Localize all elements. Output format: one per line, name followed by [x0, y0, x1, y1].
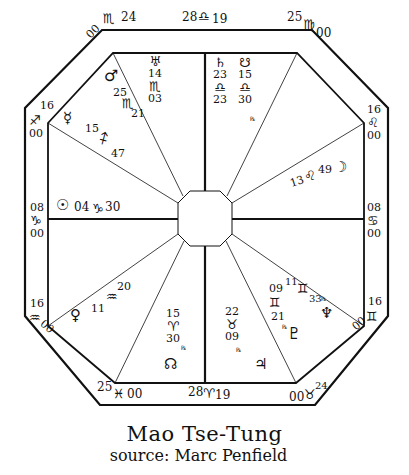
sun-degree: 04 [74, 202, 89, 213]
cusp-3-sign: ♓ [113, 387, 125, 400]
pluto-sign: ♊ [269, 296, 281, 309]
cusp-6-line [232, 234, 364, 326]
neptune-icon: ♆ [320, 306, 333, 321]
moon-minute: 49 [318, 164, 332, 175]
mercury-icon: ☿ [63, 111, 72, 126]
neptune-minute: 33 [309, 293, 322, 304]
cusp-9-sign: ♍ [303, 18, 315, 31]
chart-title: Mao Tse-Tung [0, 422, 409, 446]
neptune-degree: 11 [285, 276, 298, 287]
mercury-minute: 47 [111, 148, 125, 159]
cusp-2-line [48, 234, 178, 326]
cusp-2-deg: 16 [30, 298, 44, 309]
cusp-8-deg: 16 [367, 104, 381, 115]
cusp-7-min: 00 [367, 228, 381, 239]
cusp-12-min: 00 [29, 128, 43, 139]
cusp-9-deg: 25 [287, 12, 302, 23]
cusp-5-min: 00 [289, 392, 304, 403]
neptune-retrograde-icon: ℞ [321, 296, 326, 302]
cusp-12-deg: 16 [40, 100, 54, 111]
cusp-4-min: 19 [215, 390, 230, 401]
planet-uranus: ♅ 14 ♏ 03 [148, 55, 162, 105]
venus-sign: ♒ [106, 290, 118, 303]
cusp-1-sign: ♑ [30, 214, 42, 227]
south-node-retrograde-icon: ℞ [250, 116, 255, 122]
chart-source: source: Marc Penfield [0, 446, 403, 465]
cusp-11-deg: 24 [121, 12, 136, 23]
cusp-6-sign: ♊ [366, 310, 378, 323]
sun-minute: 30 [105, 202, 120, 213]
cusp-7-deg: 08 [367, 202, 381, 213]
cusp-2-sign: ♒ [29, 311, 41, 324]
uranus-minute: 03 [148, 93, 162, 105]
north-node-minute: 30 [166, 333, 180, 345]
north-node-icon: ☊ [164, 357, 177, 372]
cusp-1-min: 00 [30, 228, 44, 239]
pluto-degree: 09 [269, 283, 283, 294]
cusp-4-sign: ♈ [203, 387, 215, 400]
cusp-12-line [48, 123, 178, 203]
cusp-10-min: 19 [212, 14, 227, 25]
jupiter-retrograde-icon: ℞ [236, 347, 241, 353]
cusp-8-sign: ♌ [367, 116, 379, 129]
cusp-1-deg: 08 [30, 202, 44, 213]
north-node-retrograde-icon: ℞ [181, 345, 186, 351]
venus-icon: ♀ [70, 308, 81, 323]
cusp-5-sign: ♉ [304, 388, 316, 401]
mars-icon: ♂ [104, 68, 118, 84]
venus-minute: 20 [117, 281, 131, 292]
planet-north-node: 15 ♈ 30 [166, 308, 180, 345]
cusp-3-deg: 25 [97, 382, 112, 393]
neptune-sign: ♊ [297, 282, 309, 295]
horoscope-chart [0, 0, 409, 475]
cusp-4-deg: 28 [188, 387, 203, 398]
planet-south-node: ☋ 15 ♎ 30 [238, 56, 252, 106]
sun-sign: ♑ [92, 202, 104, 215]
center-octagon [178, 191, 232, 246]
cusp-8-min: 00 [367, 130, 381, 141]
cusp-9-min: 00 [316, 28, 331, 39]
cusp-7-sign: ♋ [367, 214, 379, 227]
mars-minute: 21 [131, 108, 145, 119]
cusp-10-sign: ♎ [198, 10, 210, 23]
saturn-minute: 23 [213, 94, 227, 106]
cusp-11-sign: ♏ [103, 12, 115, 25]
pluto-minute: 21 [271, 311, 285, 322]
moon-icon: ☽ [334, 160, 347, 175]
cusp-3-min: 00 [127, 389, 142, 400]
south-node-minute: 30 [238, 94, 252, 106]
cusp-6-deg: 16 [368, 296, 382, 307]
jupiter-minute: 09 [225, 331, 239, 343]
venus-degree: 11 [91, 303, 105, 314]
planet-saturn: ♄ 23 ♎ 23 [213, 56, 227, 106]
moon-sign: ♌ [304, 169, 316, 182]
pluto-icon: ♇ [287, 326, 301, 342]
cusp-12-sign: ♐ [29, 114, 41, 127]
jupiter-icon: ♃ [254, 357, 267, 372]
planet-jupiter: 22 ♉ 09 [225, 306, 239, 343]
cusp-5-deg: 24 [315, 380, 328, 391]
cusp-10-deg: 28 [182, 12, 197, 23]
sun-icon: ☉ [56, 198, 69, 213]
